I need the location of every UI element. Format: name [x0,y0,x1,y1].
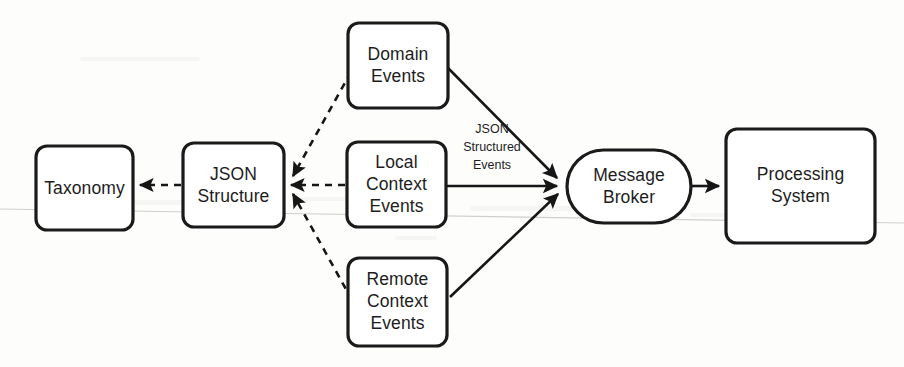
node-json-structure-label-line-2: Structure [198,186,270,206]
diagram-canvas-container: JSON Structured Events Taxonomy JSON Str… [0,0,904,367]
edge-label-line-3: Events [473,158,511,172]
node-message-broker-label-line-2: Broker [603,187,655,207]
node-remote-context-events-label-line-1: Remote [367,269,429,289]
node-json-structure-label-line-1: JSON [210,164,257,184]
node-taxonomy-label: Taxonomy [44,178,125,198]
node-json-structure[interactable]: JSON Structure [183,143,284,227]
node-local-context-events-label-line-1: Local [375,152,417,172]
edge-remote-context-to-json-structure [293,194,352,300]
node-processing-system[interactable]: Processing System [726,129,875,243]
edge-label-json-structured-events: JSON Structured Events [463,122,521,172]
node-processing-system-label-line-1: Processing [757,164,845,184]
node-domain-events-label-line-1: Domain [368,44,429,64]
node-local-context-events[interactable]: Local Context Events [347,142,446,227]
edge-label-line-2: Structured [463,140,521,154]
node-local-context-events-label-line-2: Context [366,174,427,194]
node-remote-context-events[interactable]: Remote Context Events [348,258,447,346]
node-message-broker-label-line-1: Message [593,165,665,185]
node-domain-events-label-line-2: Events [371,66,425,86]
edge-label-line-1: JSON [475,122,508,136]
node-taxonomy[interactable]: Taxonomy [36,146,133,230]
event-flow-diagram: JSON Structured Events Taxonomy JSON Str… [0,0,904,367]
node-domain-events[interactable]: Domain Events [348,23,448,108]
node-remote-context-events-label-line-2: Context [367,291,428,311]
node-local-context-events-label-line-3: Events [369,196,423,216]
node-processing-system-label-line-2: System [771,186,830,206]
node-remote-context-events-label-line-3: Events [370,313,424,333]
node-message-broker[interactable]: Message Broker [567,150,691,223]
edge-domain-events-to-json-structure [293,72,351,176]
